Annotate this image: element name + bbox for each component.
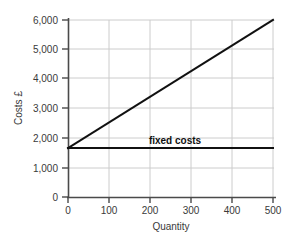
chart-container: 6,000 5,000 4,000 3,000 2,000 1,000 0 0 … bbox=[0, 0, 298, 244]
x-tick-label-200: 200 bbox=[142, 205, 159, 216]
y-axis-title: Costs £ bbox=[13, 91, 24, 125]
y-tick-label-4000: 4,000 bbox=[33, 73, 58, 84]
y-tick-label-1000: 1,000 bbox=[33, 163, 58, 174]
y-tick-label-2000: 2,000 bbox=[33, 133, 58, 144]
y-tick-label-6000: 6,000 bbox=[33, 15, 58, 26]
fixed-costs-label: fixed costs bbox=[149, 135, 202, 146]
y-tick-label-3000: 3,000 bbox=[33, 103, 58, 114]
x-axis-title: Quantity bbox=[152, 221, 189, 232]
x-tick-label-400: 400 bbox=[224, 205, 241, 216]
costs-quantity-line-chart: 6,000 5,000 4,000 3,000 2,000 1,000 0 0 … bbox=[0, 0, 298, 244]
x-tick-label-300: 300 bbox=[183, 205, 200, 216]
y-tick-label-0: 0 bbox=[52, 192, 58, 203]
x-tick-label-500: 500 bbox=[265, 205, 282, 216]
x-tick-label-0: 0 bbox=[65, 205, 71, 216]
x-tick-label-100: 100 bbox=[101, 205, 118, 216]
y-tick-label-5000: 5,000 bbox=[33, 44, 58, 55]
